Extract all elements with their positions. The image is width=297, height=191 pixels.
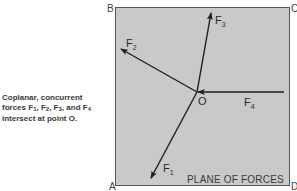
plane-of-forces-label: PLANE OF FORCES xyxy=(187,174,284,185)
force-diagram: B C A D F3 F2 F4 F1 O PLANE OF FORCES xyxy=(0,0,297,191)
corner-label-c: C xyxy=(291,3,297,14)
origin-label: O xyxy=(198,95,207,107)
corner-label-b: B xyxy=(107,3,114,14)
corner-label-d: D xyxy=(291,181,297,191)
corner-label-a: A xyxy=(109,181,116,191)
